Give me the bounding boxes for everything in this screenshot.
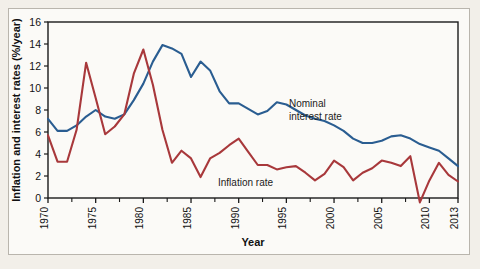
x-tick-label: 2010 xyxy=(420,207,431,230)
line-chart: 0246810121416197019751980198519901995200… xyxy=(0,0,480,269)
y-axis-title: Inflation and interest rates (%/year) xyxy=(10,18,22,202)
x-tick-label: 1985 xyxy=(182,207,193,230)
x-axis-title: Year xyxy=(241,236,265,248)
nominal-rate-annotation: Nominal xyxy=(289,98,326,109)
x-tick-label: 2000 xyxy=(325,207,336,230)
x-tick-label: 1975 xyxy=(87,207,98,230)
series-line-nominal-interest-rate xyxy=(48,45,458,166)
figure-background: 0246810121416197019751980198519901995200… xyxy=(0,0,480,269)
inflation-rate-annotation: Inflation rate xyxy=(218,177,273,188)
chart-canvas: 0246810121416197019751980198519901995200… xyxy=(0,0,480,269)
axes xyxy=(44,22,458,203)
y-tick-label: 8 xyxy=(35,104,41,116)
x-tick-label: 1980 xyxy=(134,207,145,230)
x-tick-label: 1995 xyxy=(277,207,288,230)
x-tick-label: 2013 xyxy=(449,207,460,230)
chart-text: 0246810121416197019751980198519901995200… xyxy=(10,16,460,248)
x-tick-label: 1970 xyxy=(39,207,50,230)
y-tick-label: 0 xyxy=(35,192,41,204)
y-tick-label: 12 xyxy=(29,60,41,72)
y-tick-label: 14 xyxy=(29,38,41,50)
nominal-rate-annotation-line2: interest rate xyxy=(289,111,342,122)
x-tick-label: 1990 xyxy=(230,207,241,230)
plot-frame xyxy=(48,22,458,198)
y-tick-label: 2 xyxy=(35,170,41,182)
y-tick-label: 10 xyxy=(29,82,41,94)
x-tick-label: 2005 xyxy=(373,207,384,230)
y-tick-label: 6 xyxy=(35,126,41,138)
y-tick-label: 4 xyxy=(35,148,41,160)
y-tick-label: 16 xyxy=(29,16,41,28)
